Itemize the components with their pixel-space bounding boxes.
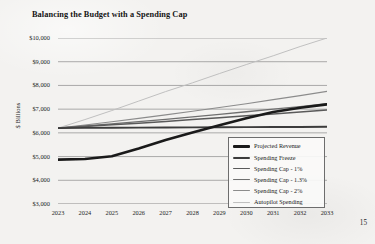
series-line <box>58 104 327 128</box>
x-axis-tick: 2031 <box>258 209 288 216</box>
legend-label: Spending Cap - 1.3% <box>254 177 307 183</box>
x-axis-tick: 2032 <box>285 209 315 216</box>
x-axis-tick: 2028 <box>178 209 208 216</box>
y-axis-tick: $7,000 <box>6 105 50 112</box>
legend-swatch-icon <box>233 145 250 148</box>
legend-item: Projected Revenue <box>233 141 321 152</box>
document-page: Balancing the Budget with a Spending Cap… <box>0 0 375 244</box>
legend-item: Spending Cap - 1.3% <box>233 174 321 185</box>
legend-swatch-icon <box>233 168 250 170</box>
y-axis-tick: $8,000 <box>6 81 50 88</box>
legend-swatch-icon <box>233 179 250 180</box>
legend-label: Spending Cap - 1% <box>254 166 302 172</box>
legend-item: Spending Freeze <box>233 152 321 163</box>
x-axis-tick: 2027 <box>151 209 181 216</box>
y-axis-tick: $6,000 <box>6 129 50 136</box>
legend-label: Autopilot Spending <box>254 199 303 205</box>
y-axis-tick: $10,000 <box>6 34 50 41</box>
series-line <box>58 110 327 128</box>
legend-item: Autopilot Spending <box>233 196 321 207</box>
x-axis-tick: 2023 <box>43 209 73 216</box>
x-axis-tick: 2026 <box>124 209 154 216</box>
y-axis-tick: $3,000 <box>6 200 50 207</box>
y-axis-tick: $4,000 <box>6 176 50 183</box>
chart-legend: Projected RevenueSpending FreezeSpending… <box>228 137 325 208</box>
legend-item: Spending Cap - 1% <box>233 163 321 174</box>
legend-label: Spending Cap - 2% <box>254 188 302 194</box>
y-axis-tick: $9,000 <box>6 58 50 65</box>
y-axis-label: $ Billions <box>14 86 21 146</box>
page-number: 15 <box>360 219 367 227</box>
x-axis-tick: 2029 <box>204 209 234 216</box>
legend-swatch-icon <box>233 157 250 159</box>
x-axis-tick: 2030 <box>231 209 261 216</box>
legend-item: Spending Cap - 2% <box>233 185 321 196</box>
x-axis-tick: 2024 <box>70 209 100 216</box>
x-axis-tick: 2033 <box>312 209 342 216</box>
y-axis-tick: $5,000 <box>6 153 50 160</box>
x-axis-tick: 2025 <box>97 209 127 216</box>
series-line <box>58 127 327 128</box>
legend-label: Projected Revenue <box>254 143 301 149</box>
legend-swatch-icon <box>233 202 250 203</box>
legend-swatch-icon <box>233 190 250 191</box>
series-line <box>58 38 327 128</box>
chart-title: Balancing the Budget with a Spending Cap <box>32 10 187 19</box>
legend-label: Spending Freeze <box>254 155 295 161</box>
